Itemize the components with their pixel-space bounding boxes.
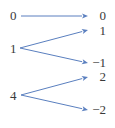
arrowhead-icon [82, 59, 88, 64]
mapping-diagram: 0 1 4 0 1 −1 2 −2 [0, 0, 115, 128]
arrow-line [20, 48, 82, 62]
codomain-label: 0 [100, 8, 107, 23]
domain-label: 4 [10, 88, 17, 103]
domain-labels: 0 1 4 [10, 8, 17, 103]
arrow-line [21, 79, 82, 95]
domain-label: 0 [10, 8, 17, 23]
arrows [20, 13, 88, 111]
codomain-label: 2 [100, 69, 107, 84]
codomain-label: −1 [92, 55, 106, 70]
arrowhead-icon [82, 76, 88, 81]
domain-label: 1 [10, 41, 17, 56]
codomain-label: −2 [92, 102, 106, 117]
codomain-labels: 0 1 −1 2 −2 [92, 8, 106, 117]
codomain-label: 1 [100, 23, 107, 38]
arrowhead-icon [82, 106, 88, 111]
arrow-line [21, 95, 82, 109]
arrowhead-icon [82, 13, 88, 18]
arrowhead-icon [82, 29, 88, 34]
arrow-line [20, 32, 82, 48]
